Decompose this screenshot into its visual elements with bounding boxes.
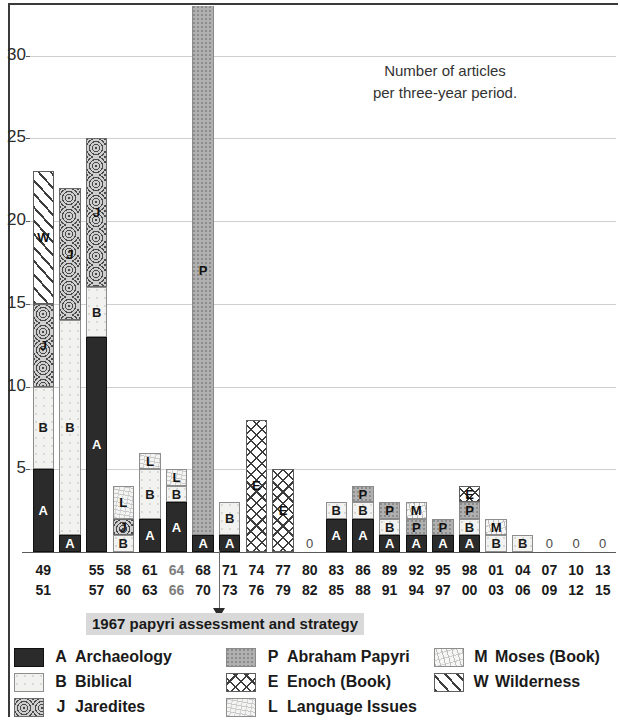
- bar-segment-L: L: [139, 453, 160, 470]
- x-label-end: 06: [509, 580, 536, 600]
- bar-55-57[interactable]: ABJ: [86, 138, 107, 552]
- bar-95-97[interactable]: AP: [432, 502, 453, 552]
- legend-swatch-L: [226, 698, 256, 717]
- legend-item-B[interactable]: BBiblical: [14, 670, 172, 694]
- bar-89-91[interactable]: ABP: [379, 502, 400, 552]
- bar-segment-B: B: [512, 535, 533, 552]
- bar-segment-M: M: [485, 519, 506, 536]
- bar-segment-key: A: [412, 537, 421, 550]
- x-label-end: 94: [403, 580, 430, 600]
- x-label-start: 04: [509, 560, 536, 580]
- legend-key-J: J: [53, 698, 69, 716]
- legend-swatch-J: [14, 698, 44, 717]
- legend-item-P[interactable]: PAbraham Papyri: [226, 645, 417, 669]
- bar-segment-key: P: [412, 521, 421, 534]
- bar-77-79[interactable]: E: [272, 469, 293, 552]
- legend-item-M[interactable]: MMoses (Book): [434, 645, 600, 669]
- legend-item-E[interactable]: EEnoch (Book): [226, 670, 417, 694]
- bar-segment-key: B: [225, 512, 234, 525]
- gridline-10: [30, 387, 616, 388]
- y-tick-label-10: 10: [0, 376, 26, 396]
- bar-segment-A: A: [166, 502, 187, 552]
- y-tick-label-30: 30: [0, 45, 26, 65]
- bar-segment-L: L: [166, 469, 187, 486]
- bar-segment-A: A: [139, 519, 160, 552]
- bar-segment-A: A: [59, 535, 80, 552]
- y-tick-label-20: 20: [0, 210, 26, 230]
- x-label-18: 0406: [509, 560, 536, 600]
- x-label-end: [57, 580, 84, 600]
- bar-98-00[interactable]: ABPE: [459, 486, 480, 552]
- x-axis-baseline: [22, 552, 616, 553]
- bar-zero-label: 0: [565, 536, 586, 551]
- legend-swatch-B: [14, 673, 44, 692]
- bar-83-85[interactable]: AB: [326, 502, 347, 552]
- bar-61-63[interactable]: ABL: [139, 453, 160, 552]
- bar-segment-key: J: [40, 339, 47, 352]
- legend-item-L[interactable]: LLanguage Issues: [226, 695, 417, 719]
- x-label-15: 9597: [430, 560, 457, 600]
- bar-01-03[interactable]: BM: [485, 519, 506, 552]
- chart-frame: 51015202530 ABJWABJABJBJLABLABLAPABEE0AB…: [0, 0, 620, 721]
- bar-71-73[interactable]: AB: [219, 502, 240, 552]
- frame-left-border: [8, 3, 10, 717]
- bar-zero-label: 0: [539, 536, 560, 551]
- bar-segment-key: M: [491, 521, 502, 534]
- bar-segment-A: A: [219, 535, 240, 552]
- bar-segment-J: J: [86, 138, 107, 287]
- bar-segment-B: B: [352, 502, 373, 519]
- x-label-10: 8082: [296, 560, 323, 600]
- x-label-start: 68: [190, 560, 217, 580]
- x-label-12: 8688: [350, 560, 377, 600]
- legend-item-A[interactable]: AArchaeology: [14, 645, 172, 669]
- legend-item-W[interactable]: WWilderness: [434, 670, 600, 694]
- bar-49-51[interactable]: ABJW: [33, 171, 54, 552]
- bar-segment-J: J: [113, 519, 134, 536]
- chart-title: Number of articlesper three-year period.: [330, 60, 560, 104]
- x-label-0: 4951: [30, 560, 57, 600]
- bar-segment-key: J: [93, 206, 100, 219]
- bar-92-94[interactable]: APM: [406, 502, 427, 552]
- chart-legend: AArchaeologyBBiblicalJJareditesPAbraham …: [14, 645, 614, 719]
- x-label-start: 92: [403, 560, 430, 580]
- legend-key-A: A: [53, 648, 69, 666]
- x-label-6: 6870: [190, 560, 217, 600]
- bar-68-70[interactable]: AP: [192, 6, 213, 552]
- bar-04-06[interactable]: B: [512, 535, 533, 552]
- bar-segment-A: A: [459, 535, 480, 552]
- bar-segment-L: L: [113, 486, 134, 519]
- bar-segment-key: A: [332, 529, 341, 542]
- legend-swatch-M: [434, 648, 464, 667]
- x-label-end: 03: [483, 580, 510, 600]
- legend-key-P: P: [265, 648, 281, 666]
- x-label-1: [57, 560, 84, 600]
- x-label-end: 15: [589, 580, 616, 600]
- x-label-2: 5557: [83, 560, 110, 600]
- bar-86-88[interactable]: ABP: [352, 502, 373, 552]
- bar-segment-J: J: [33, 304, 54, 387]
- bar-58-60[interactable]: BJL: [113, 486, 134, 552]
- bar-segment-B: B: [113, 535, 134, 552]
- bar-74-76[interactable]: E: [246, 420, 267, 552]
- x-label-end: 63: [137, 580, 164, 600]
- x-label-start: 77: [270, 560, 297, 580]
- y-tick-label-25: 25: [0, 127, 26, 147]
- bar-segment-key: M: [411, 504, 422, 517]
- legend-key-M: M: [473, 648, 489, 666]
- bar-segment-key: A: [225, 537, 234, 550]
- gridline-25: [30, 138, 616, 139]
- bar-segment-B: B: [379, 519, 400, 536]
- x-label-20: 1012: [563, 560, 590, 600]
- x-label-end: 85: [323, 580, 350, 600]
- bar-segment-key: B: [39, 421, 48, 434]
- legend-item-J[interactable]: JJaredites: [14, 695, 172, 719]
- bar-segment-key: P: [439, 521, 448, 534]
- bar-64-66[interactable]: ABL: [166, 469, 187, 552]
- legend-label-B: Biblical: [75, 673, 132, 691]
- x-label-start: 89: [376, 560, 403, 580]
- legend-swatch-A: [14, 648, 44, 667]
- bar-52-54[interactable]: ABJ: [59, 188, 80, 552]
- bar-segment-P: P: [379, 502, 400, 519]
- bar-segment-key: J: [66, 248, 73, 261]
- x-label-end: 70: [190, 580, 217, 600]
